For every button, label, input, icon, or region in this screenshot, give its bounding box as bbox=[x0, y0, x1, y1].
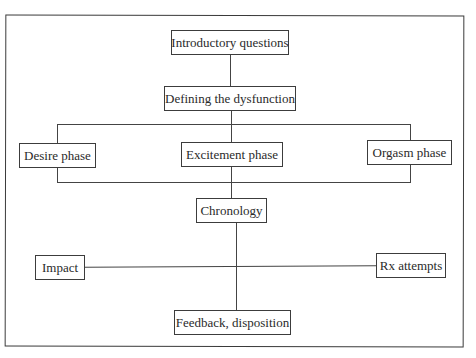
flowchart-canvas: Introductory questions Defining the dysf… bbox=[0, 0, 476, 358]
node-desire-phase: Desire phase bbox=[19, 143, 96, 168]
connector-intro-defining bbox=[230, 54, 231, 86]
node-chronology: Chronology bbox=[196, 198, 267, 223]
node-orgasm-phase: Orgasm phase bbox=[367, 140, 452, 165]
node-impact: Impact bbox=[35, 255, 85, 280]
node-introductory-questions: Introductory questions bbox=[171, 30, 289, 55]
node-feedback-disposition: Feedback, disposition bbox=[174, 310, 291, 335]
connector-excitement-chronology bbox=[231, 166, 232, 198]
node-defining-dysfunction: Defining the dysfunction bbox=[164, 86, 296, 111]
node-rx-attempts: Rx attempts bbox=[376, 253, 446, 278]
node-excitement-phase: Excitement phase bbox=[181, 142, 283, 167]
